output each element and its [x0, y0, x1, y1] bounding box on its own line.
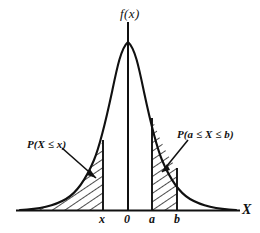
- y-axis-label: f(x): [120, 7, 140, 20]
- tick-label-b: b: [174, 213, 180, 225]
- left-region-annotation: P(X ≤ x): [27, 139, 66, 150]
- tick-label-x: x: [99, 213, 105, 225]
- figure-canvas: [0, 0, 260, 233]
- tick-label-origin: 0: [124, 213, 130, 225]
- left-label-leader: [62, 148, 96, 178]
- right-region-annotation: P(a ≤ X ≤ b): [177, 129, 234, 140]
- probability-density-figure: f(x) X x 0 a b P(X ≤ x) P(a ≤ X ≤ b): [0, 0, 260, 233]
- x-axis-label: X: [242, 203, 251, 217]
- tick-label-a: a: [149, 213, 155, 225]
